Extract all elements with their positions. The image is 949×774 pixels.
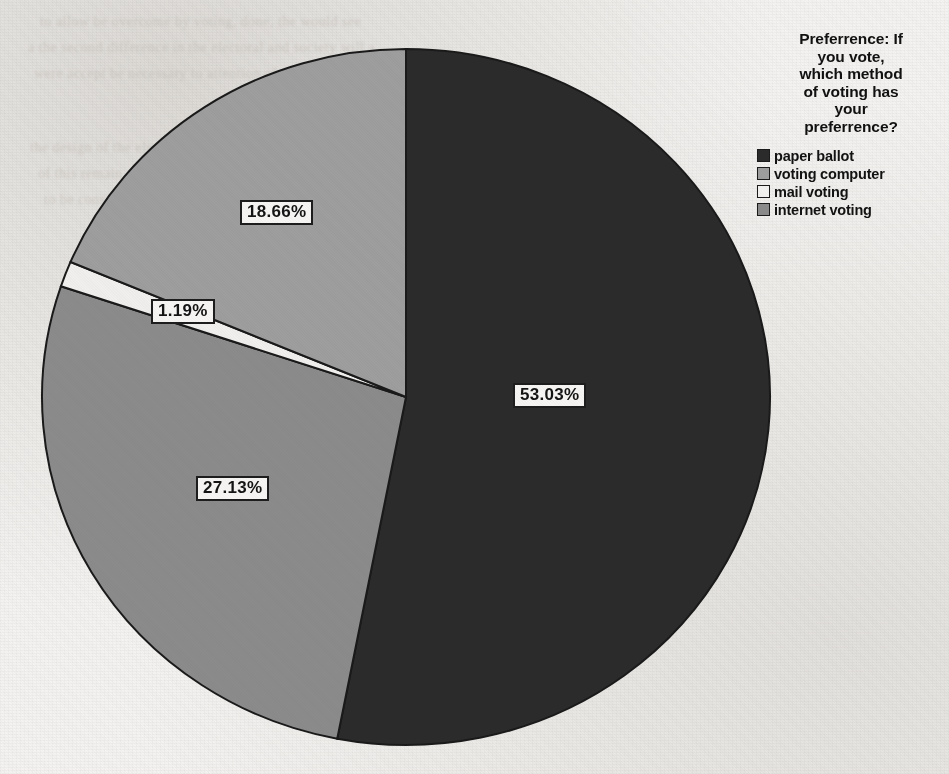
- chart-title: Preferrence: If you vote, which method o…: [757, 30, 945, 135]
- chart-title-line: preferrence?: [804, 118, 898, 135]
- chart-title-line: Preferrence: If: [799, 30, 903, 47]
- legend-list: paper ballotvoting computermail votingin…: [757, 147, 945, 218]
- legend-color-swatch: [757, 203, 770, 216]
- legend-item[interactable]: internet voting: [757, 201, 945, 218]
- chart-title-line: of voting has: [803, 83, 898, 100]
- legend-item-label: paper ballot: [774, 148, 854, 164]
- legend-color-swatch: [757, 167, 770, 180]
- chart-title-line: you vote,: [817, 48, 884, 65]
- pie-slice-group: [42, 49, 770, 745]
- legend-item-label: internet voting: [774, 202, 872, 218]
- slice-value-label-mail-voting: 1.19%: [151, 299, 215, 324]
- legend-item[interactable]: voting computer: [757, 165, 945, 182]
- legend-item-label: mail voting: [774, 184, 848, 200]
- chart-title-line: which method: [800, 65, 903, 82]
- slice-value-label-internet-voting: 27.13%: [196, 476, 269, 501]
- chart-page: to allow be overcome by voting, done, th…: [0, 0, 949, 774]
- legend-color-swatch: [757, 185, 770, 198]
- legend-item-label: voting computer: [774, 166, 885, 182]
- legend-item[interactable]: paper ballot: [757, 147, 945, 164]
- chart-title-line: your: [834, 100, 867, 117]
- slice-value-label-voting-computer: 18.66%: [240, 200, 313, 225]
- legend-block: Preferrence: If you vote, which method o…: [757, 30, 945, 219]
- legend-item[interactable]: mail voting: [757, 183, 945, 200]
- slice-value-label-paper-ballot: 53.03%: [513, 383, 586, 408]
- legend-color-swatch: [757, 149, 770, 162]
